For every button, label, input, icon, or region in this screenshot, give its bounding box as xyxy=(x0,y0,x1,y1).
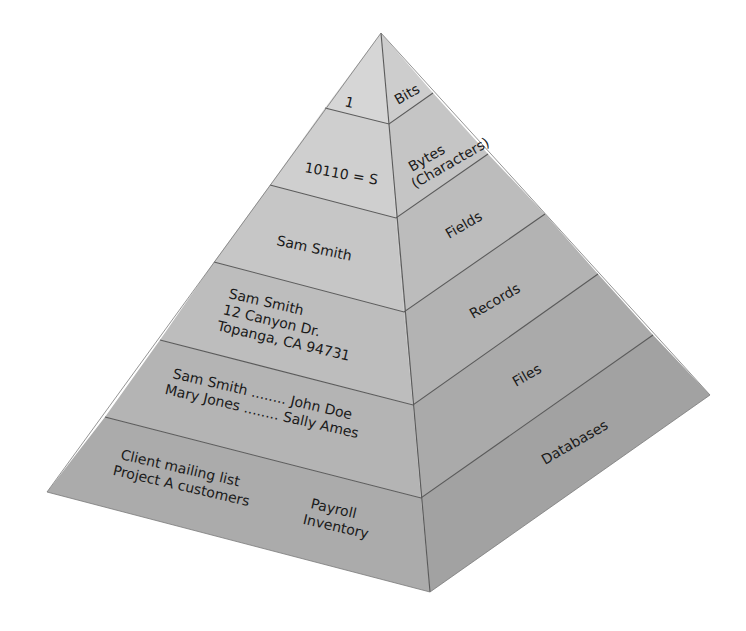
right-face xyxy=(381,33,710,592)
data-hierarchy-pyramid: 1 10110 = S Sam Smith Sam Smith 12 Canyo… xyxy=(0,0,746,631)
